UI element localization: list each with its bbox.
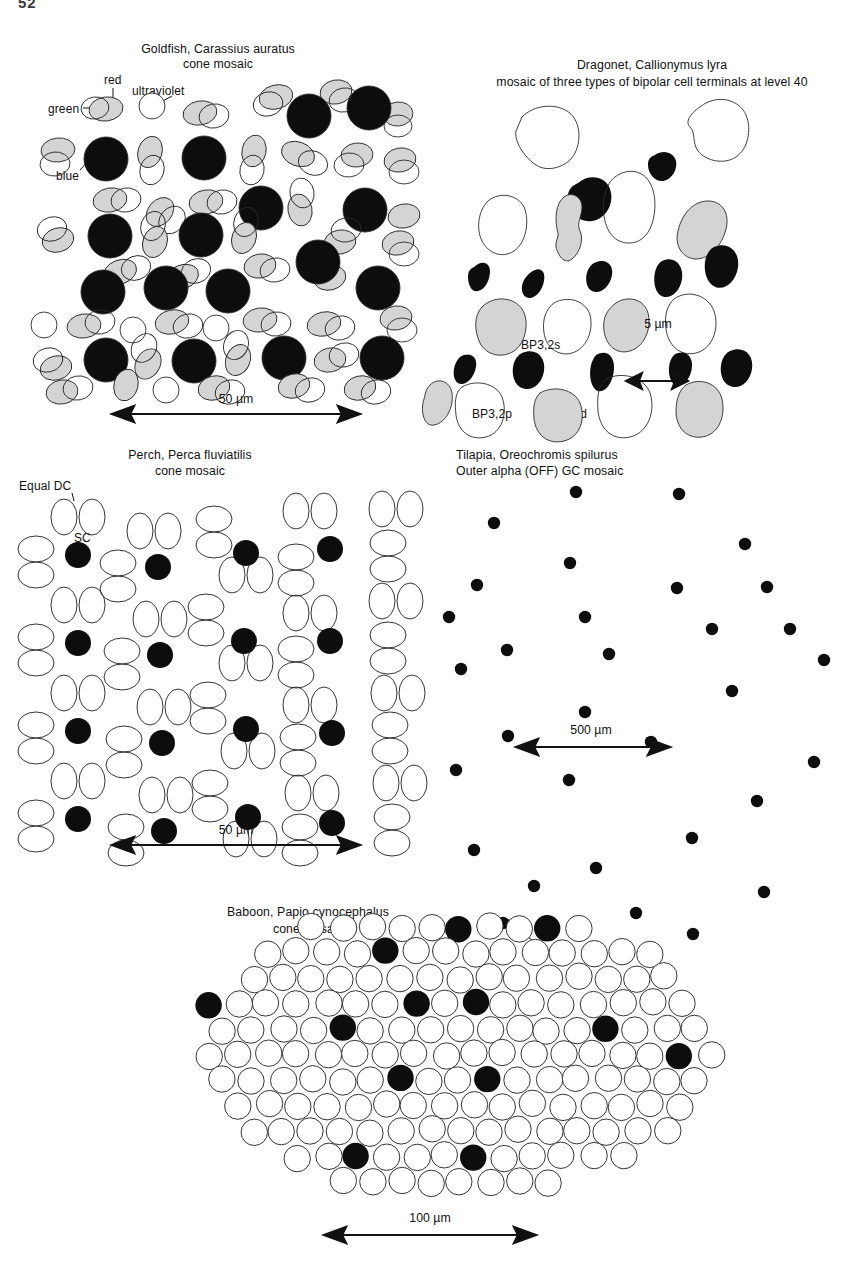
- baboon-cone: [507, 1015, 533, 1041]
- baboon-cone: [447, 967, 473, 993]
- baboon-scale-bar: 100 µm: [180, 1195, 740, 1245]
- baboon-cone: [548, 1142, 574, 1168]
- baboon-cone: [389, 1017, 415, 1043]
- tilapia-ganglion-cell-mosaic: [430, 445, 854, 895]
- baboon-cone: [447, 1015, 473, 1041]
- baboon-blue-cone: [195, 992, 221, 1018]
- baboon-blue-cone: [387, 1065, 413, 1091]
- baboon-cone: [372, 991, 398, 1017]
- baboon-blue-cone: [460, 1144, 486, 1170]
- baboon-cone: [327, 966, 353, 992]
- baboon-blue-cone: [372, 937, 398, 963]
- dragonet-mosaic-drawing: [430, 55, 854, 435]
- baboon-cone: [446, 1169, 472, 1195]
- baboon-cone: [503, 965, 529, 991]
- baboon-cone: [593, 1119, 619, 1145]
- baboon-cone: [581, 941, 607, 967]
- baboon-cone: [357, 1067, 383, 1093]
- baboon-cone: [388, 1118, 414, 1144]
- baboon-cone: [330, 915, 356, 941]
- baboon-cone: [389, 1167, 415, 1193]
- baboon-cone: [461, 1092, 487, 1118]
- dragonet-scale-label: 5 µm: [644, 317, 672, 331]
- baboon-cone: [654, 1015, 680, 1041]
- baboon-cone: [667, 1094, 693, 1120]
- baboon-cone: [651, 963, 677, 989]
- baboon-blue-cone: [474, 1066, 500, 1092]
- baboon-cone: [418, 1170, 444, 1196]
- baboon-cone: [431, 1093, 457, 1119]
- baboon-cone: [282, 1041, 308, 1067]
- panel-tilapia: Tilapia, Oreochromis spilurus Outer alph…: [430, 445, 854, 895]
- baboon-cone: [374, 1091, 400, 1117]
- baboon-cone: [611, 1142, 637, 1168]
- baboon-cone: [550, 1094, 576, 1120]
- baboon-cone: [655, 1118, 681, 1144]
- baboon-cone: [417, 964, 443, 990]
- baboon-cone: [298, 966, 324, 992]
- baboon-cone: [433, 1043, 459, 1069]
- baboon-scale-label: 100 µm: [409, 1211, 450, 1225]
- baboon-blue-cone: [330, 1014, 356, 1040]
- baboon-cone: [433, 938, 459, 964]
- baboon-cone: [373, 1144, 399, 1170]
- baboon-cone: [637, 1043, 663, 1069]
- baboon-cone: [330, 1167, 356, 1193]
- baboon-cone: [533, 1018, 559, 1044]
- baboon-cone: [400, 1040, 426, 1066]
- tilapia-scale-label: 500 µm: [570, 723, 611, 737]
- baboon-cone: [314, 1094, 340, 1120]
- baboon-cone: [252, 990, 278, 1016]
- baboon-cone: [345, 1094, 371, 1120]
- baboon-cone: [562, 1065, 588, 1091]
- baboon-cone: [298, 913, 324, 939]
- baboon-cone: [316, 990, 342, 1016]
- baboon-cone: [419, 915, 445, 941]
- baboon-cone: [357, 1018, 383, 1044]
- baboon-cone: [241, 966, 267, 992]
- baboon-cone: [681, 1068, 707, 1094]
- baboon-cone: [404, 1144, 430, 1170]
- baboon-cone: [372, 1042, 398, 1068]
- baboon-cone: [356, 965, 382, 991]
- perch-mosaic-drawing: [0, 445, 420, 865]
- baboon-cone: [268, 1118, 294, 1144]
- baboon-cone: [490, 992, 516, 1018]
- baboon-cone: [581, 1142, 607, 1168]
- baboon-cone: [624, 1066, 650, 1092]
- baboon-cone: [241, 1119, 267, 1145]
- baboon-cone: [315, 1042, 341, 1068]
- baboon-cone: [297, 1118, 323, 1144]
- baboon-cone: [431, 1142, 457, 1168]
- page-number: 52: [18, 0, 37, 11]
- baboon-cone: [271, 1016, 297, 1042]
- baboon-cone: [489, 1094, 515, 1120]
- tilapia-scale-bar: 500 µm: [430, 723, 854, 768]
- goldfish-mosaic-drawing: [0, 30, 420, 430]
- dragonet-scale-arrow-group: [626, 373, 688, 389]
- perch-scale-label: 50 µm: [219, 823, 253, 837]
- baboon-cone: [581, 1093, 607, 1119]
- baboon-cone: [400, 1092, 426, 1118]
- baboon-cone: [461, 1040, 487, 1066]
- baboon-cone: [419, 1116, 445, 1142]
- baboon-cone: [256, 1040, 282, 1066]
- baboon-cone: [477, 913, 503, 939]
- baboon-cone: [549, 940, 575, 966]
- baboon-cone: [609, 939, 635, 965]
- baboon-cone: [284, 1145, 310, 1171]
- baboon-cone: [654, 1068, 680, 1094]
- tilapia-scale-arrow: [430, 723, 854, 763]
- baboon-cone: [537, 1118, 563, 1144]
- baboon-cone: [566, 915, 592, 941]
- baboon-cone: [342, 991, 368, 1017]
- baboon-cone: [504, 1067, 530, 1093]
- baboon-cone: [256, 1090, 282, 1116]
- baboon-blue-cone: [592, 1016, 618, 1042]
- baboon-cone: [209, 1018, 235, 1044]
- baboon-cone: [637, 1090, 663, 1116]
- baboon-cone: [314, 939, 340, 965]
- baboon-cone: [669, 990, 695, 1016]
- baboon-cone: [359, 914, 385, 940]
- perch-leader-lines: [72, 493, 74, 501]
